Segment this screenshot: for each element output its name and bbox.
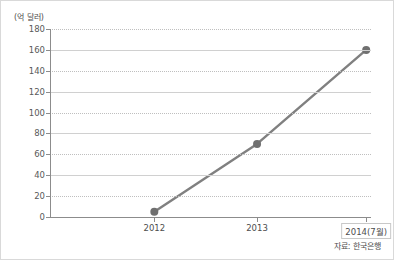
x-axis-tick-label: 2014(7월) (341, 223, 391, 239)
x-axis-line (50, 217, 371, 218)
gridline (50, 92, 371, 93)
y-axis-tick-mark (46, 113, 50, 114)
y-axis-tick-label: 80 (34, 128, 45, 138)
gridline (50, 113, 371, 114)
gridline (50, 133, 371, 134)
y-axis-tick-label: 140 (29, 66, 45, 76)
x-axis-tick-label: 2012 (143, 223, 165, 233)
data-point-marker (253, 140, 261, 148)
y-axis-tick-label: 0 (40, 212, 45, 222)
y-axis-tick-mark (46, 71, 50, 72)
x-axis-tick-mark (154, 217, 155, 222)
plot-area (50, 29, 371, 217)
y-axis-tick-mark (46, 50, 50, 51)
chart-figure: (억 달러) 020406080100120140160180 (년) 자료: … (0, 0, 394, 260)
y-axis-tick-label: 40 (34, 170, 45, 180)
y-axis-unit-label: (억 달러) (14, 11, 44, 22)
x-axis-tick-mark (257, 217, 258, 222)
gridline (50, 29, 371, 30)
gridline (50, 175, 371, 176)
y-axis-tick-label: 20 (34, 191, 45, 201)
x-axis-tick-label: 2013 (246, 223, 268, 233)
gridline (50, 50, 371, 51)
y-axis-tick-mark (46, 92, 50, 93)
y-axis-tick-label: 160 (29, 45, 45, 55)
source-note: 자료: 한국은행 (334, 240, 381, 251)
gridline (50, 154, 371, 155)
data-point-marker (150, 208, 158, 216)
y-axis-tick-mark (46, 29, 50, 30)
gridline (50, 71, 371, 72)
y-axis-tick-mark (46, 154, 50, 155)
y-axis-tick-label: 120 (29, 87, 45, 97)
y-axis-tick-mark (46, 217, 50, 218)
y-axis-tick-mark (46, 133, 50, 134)
line-series (50, 29, 371, 217)
y-axis-tick-label: 60 (34, 149, 45, 159)
y-axis-tick-mark (46, 175, 50, 176)
y-axis-tick-mark (46, 196, 50, 197)
y-axis-tick-label: 100 (29, 108, 45, 118)
y-axis-tick-label: 180 (29, 24, 45, 34)
y-axis-line (50, 29, 51, 217)
y-axis-tick-labels: 020406080100120140160180 (1, 29, 45, 217)
series-line (154, 50, 366, 212)
gridline (50, 196, 371, 197)
x-axis-tick-mark (366, 217, 367, 222)
